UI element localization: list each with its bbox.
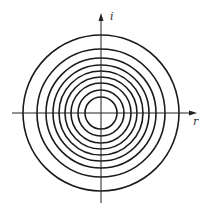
concentric-circles-diagram: r i xyxy=(0,0,209,213)
i-axis-arrow-icon xyxy=(99,13,104,21)
r-axis-label: r xyxy=(193,115,199,128)
i-axis-label: i xyxy=(110,10,114,23)
